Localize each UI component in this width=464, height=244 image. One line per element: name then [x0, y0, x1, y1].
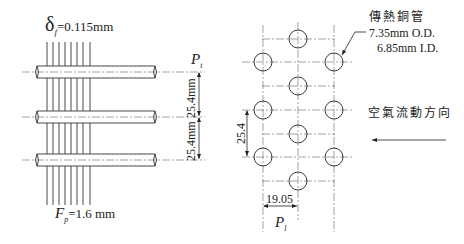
vertical-dim-label: 25.4: [235, 123, 247, 144]
transverse-pitch-label: Pt: [191, 52, 202, 70]
row-centerlines: [242, 39, 352, 181]
tube-inner-diameter: 6.85mm I.D.: [377, 42, 438, 54]
tube-label-title: 傳熱銅管: [369, 11, 425, 23]
pitch-dim-upper: 25.4mm: [185, 78, 197, 118]
tube-outer-diameter: 7.35mm O.D.: [369, 27, 435, 39]
horizontal-dim-label: 19.05: [266, 193, 293, 205]
left-view: [22, 42, 205, 205]
longitudinal-pitch-label: Pl: [275, 215, 286, 233]
tube-leader: [342, 32, 366, 55]
fin-thickness-value: =0.115mm: [57, 19, 113, 34]
pitch-dim-lower: 25.4mm: [185, 121, 197, 161]
tubes: [36, 66, 157, 166]
fin-pitch-label: Fp=1.6 mm: [55, 206, 115, 224]
fin-thickness-label: δf=0.115mm: [45, 14, 113, 37]
airflow-direction-label: 空氣流動方向: [368, 107, 452, 119]
